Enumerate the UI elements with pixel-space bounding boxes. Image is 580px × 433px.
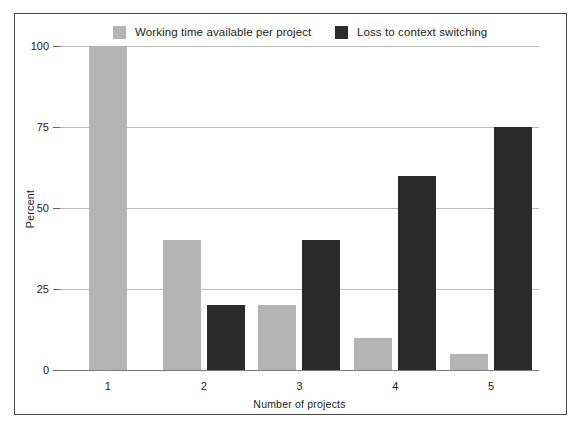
bar-series-b-5[interactable] xyxy=(494,127,532,370)
y-axis-title-text: Percent xyxy=(24,189,36,227)
y-axis-tick-100 xyxy=(53,46,60,47)
y-axis-label-0: 0 xyxy=(43,364,49,376)
y-axis-label-100: 100 xyxy=(31,40,49,52)
bar-group-2: 2 xyxy=(156,46,252,370)
x-axis-title: Number of projects xyxy=(60,398,539,410)
x-axis-line xyxy=(60,370,539,371)
x-axis-label-3: 3 xyxy=(252,380,348,392)
bar-group-1: 1 xyxy=(60,46,156,370)
bar-group-5: 5 xyxy=(443,46,539,370)
x-axis-label-1: 1 xyxy=(60,380,156,392)
chart-legend: Working time available per project Loss … xyxy=(95,22,525,42)
legend-entry-working-time[interactable]: Working time available per project xyxy=(113,22,311,42)
legend-swatch-icon-series-b xyxy=(335,26,348,39)
bar-series-a-2[interactable] xyxy=(163,240,201,370)
y-axis-label-75: 75 xyxy=(37,121,49,133)
y-axis-tick-75 xyxy=(53,127,60,128)
bar-series-a-3[interactable] xyxy=(258,305,296,370)
bar-series-a-5[interactable] xyxy=(450,354,488,370)
chart-figure: Working time available per project Loss … xyxy=(0,0,580,433)
legend-entry-context-switching[interactable]: Loss to context switching xyxy=(335,22,487,42)
legend-swatch-icon-series-a xyxy=(113,26,126,39)
bar-group-3: 3 xyxy=(252,46,348,370)
y-axis-title: Percent xyxy=(23,46,37,371)
bar-series-a-4[interactable] xyxy=(354,338,392,370)
x-axis-label-5: 5 xyxy=(443,380,539,392)
y-axis-tick-0 xyxy=(53,370,60,371)
bar-series-b-3[interactable] xyxy=(302,240,340,370)
bar-series-a-1[interactable] xyxy=(89,46,127,370)
bar-series-b-2[interactable] xyxy=(207,305,245,370)
legend-label-series-b: Loss to context switching xyxy=(357,26,487,38)
y-axis-tick-25 xyxy=(53,289,60,290)
bar-group-4: 4 xyxy=(347,46,443,370)
chart-plot-area: 025507510012345 xyxy=(60,46,539,371)
y-axis-tick-50 xyxy=(53,208,60,209)
y-axis-label-50: 50 xyxy=(37,202,49,214)
legend-label-series-a: Working time available per project xyxy=(135,26,311,38)
y-axis-label-25: 25 xyxy=(37,283,49,295)
bar-series-b-4[interactable] xyxy=(398,176,436,370)
x-axis-label-4: 4 xyxy=(347,380,443,392)
x-axis-label-2: 2 xyxy=(156,380,252,392)
